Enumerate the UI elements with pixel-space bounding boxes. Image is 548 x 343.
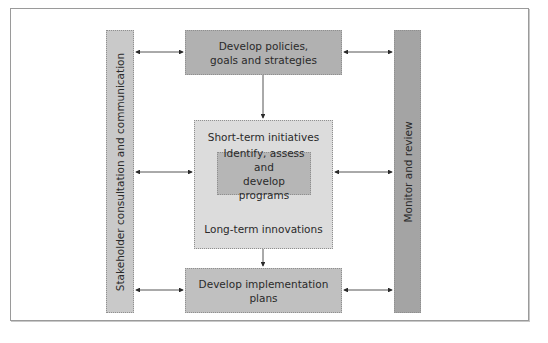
connector-arrows (0, 0, 548, 343)
